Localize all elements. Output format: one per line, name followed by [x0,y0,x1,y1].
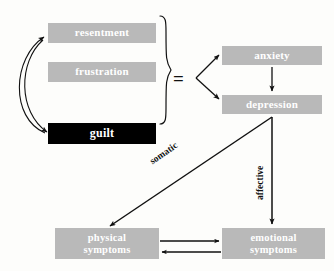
node-physical-symptoms[interactable]: physical symptoms [55,228,159,259]
node-frustration[interactable]: frustration [48,62,156,82]
node-anxiety[interactable]: anxiety [222,46,322,65]
diagram-canvas: resentment frustration guilt anxiety dep… [0,0,334,271]
node-emotional-symptoms-label-line2: symptoms [250,244,297,255]
edge-label-affective: affective [255,166,265,200]
branch-to-depression [196,78,219,99]
branch-to-anxiety [196,55,219,78]
node-depression-label: depression [246,99,298,111]
node-physical-symptoms-label-line2: symptoms [83,244,130,255]
node-resentment[interactable]: resentment [48,23,156,43]
node-guilt-label: guilt [90,127,114,140]
node-emotional-symptoms-label-line1: emotional [250,232,296,243]
node-frustration-label: frustration [75,66,129,78]
node-anxiety-label: anxiety [254,50,290,62]
equals-operator: = [173,68,184,90]
node-resentment-label: resentment [75,27,129,39]
group-brace [160,16,171,124]
curve-guilt-to-resentment [19,37,45,133]
node-guilt[interactable]: guilt [48,123,156,144]
node-physical-symptoms-label-line1: physical [88,232,126,243]
node-emotional-symptoms[interactable]: emotional symptoms [222,228,325,259]
node-depression[interactable]: depression [222,95,322,114]
